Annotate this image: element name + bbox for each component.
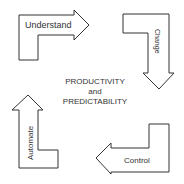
control-arrow: Control bbox=[96, 124, 169, 174]
understand-label: Understand bbox=[25, 20, 72, 30]
change-arrow: Change bbox=[123, 14, 174, 89]
diagram-canvas: Understand Change Control Automate PRODU… bbox=[0, 0, 184, 184]
center-line-2: and bbox=[88, 87, 101, 96]
center-title: PRODUCTIVITY and PREDICTABILITY bbox=[63, 77, 128, 106]
control-label: Control bbox=[124, 156, 150, 165]
understand-arrow: Understand bbox=[19, 10, 89, 60]
center-line-3: PREDICTABILITY bbox=[63, 97, 128, 106]
automate-label: Automate bbox=[26, 125, 35, 160]
center-line-1: PRODUCTIVITY bbox=[65, 77, 125, 86]
automate-arrow: Automate bbox=[12, 95, 58, 168]
cycle-diagram: Understand Change Control Automate PRODU… bbox=[0, 0, 184, 184]
change-label: Change bbox=[153, 29, 161, 54]
